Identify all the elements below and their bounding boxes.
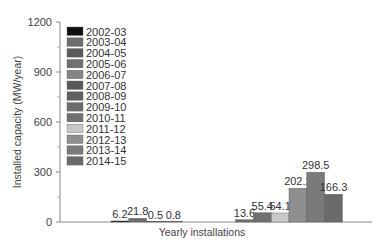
legend-swatch xyxy=(67,157,83,166)
bar-2009-10 xyxy=(236,220,254,222)
bar-value-label: 54.1 xyxy=(269,200,290,212)
bar-value-label: 0.8 xyxy=(166,209,181,221)
x-axis-title: Yearly installations xyxy=(159,226,246,238)
legend-swatch xyxy=(67,124,83,133)
bar-value-label: 0.5 xyxy=(148,209,163,221)
legend: 2002-032003-042004-052005-062006-072007-… xyxy=(67,26,126,168)
bar-2004-05 xyxy=(147,221,165,222)
legend-swatch xyxy=(67,81,83,90)
bar-value-label: 298.5 xyxy=(302,159,330,171)
bar-value-label: 6.2 xyxy=(112,208,127,220)
bar-2002-03 xyxy=(111,221,129,222)
bar-2012-13 xyxy=(289,188,307,222)
legend-swatch xyxy=(67,70,83,79)
legend-swatch xyxy=(67,49,83,58)
bar-2010-11 xyxy=(253,213,271,222)
legend-swatch xyxy=(67,146,83,155)
bar-2005-06 xyxy=(164,221,182,222)
bar-2003-04 xyxy=(129,218,147,222)
bar-value-label: 166.3 xyxy=(320,181,348,193)
y-tick-label: 600 xyxy=(34,116,52,128)
y-axis-title: Installed capacity (MW/year) xyxy=(11,56,23,188)
legend-swatch xyxy=(67,113,83,122)
legend-swatch xyxy=(67,92,83,101)
legend-swatch xyxy=(67,38,83,47)
y-tick-label: 1200 xyxy=(28,16,52,28)
y-tick-label: 900 xyxy=(34,66,52,78)
bar-2014-15 xyxy=(325,194,343,222)
bar-2013-14 xyxy=(307,172,325,222)
y-ticks: 03006009001200 xyxy=(28,16,60,228)
legend-swatch xyxy=(67,103,83,112)
legend-swatch xyxy=(67,135,83,144)
y-tick-label: 0 xyxy=(46,216,52,228)
bar-2011-12 xyxy=(271,213,289,222)
bars: 6.221.80.50.813.655.454.1202.2298.5166.3 xyxy=(111,159,347,222)
y-tick-label: 300 xyxy=(34,166,52,178)
bar-chart: 03006009001200 Installed capacity (MW/ye… xyxy=(0,0,389,252)
legend-label: 2014-15 xyxy=(86,155,126,167)
legend-swatch xyxy=(67,59,83,68)
legend-swatch xyxy=(67,27,83,36)
bar-value-label: 21.8 xyxy=(127,205,148,217)
